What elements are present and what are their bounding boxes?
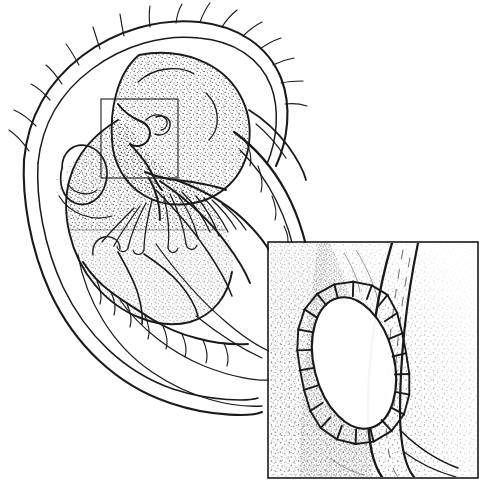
illustration-canvas (0, 0, 498, 498)
figure-root: Cardiac cross-section with magnified ins… (0, 0, 498, 498)
magnified-suture-detail-panel[interactable] (268, 242, 478, 478)
